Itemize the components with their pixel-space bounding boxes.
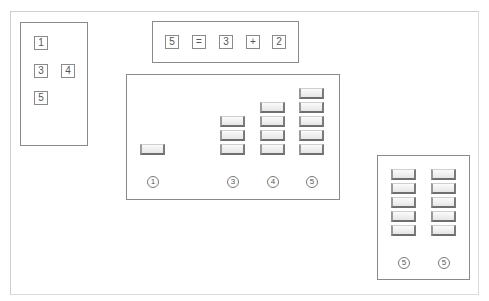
block xyxy=(299,144,324,155)
equation-token-equals: = xyxy=(192,35,206,49)
number-cards-panel: 1 3 4 5 xyxy=(20,22,88,146)
block xyxy=(391,183,416,194)
block xyxy=(220,116,245,127)
block xyxy=(391,211,416,222)
block-towers-panel: 1 3 4 5 xyxy=(126,74,340,200)
count-label-3: 3 xyxy=(227,176,239,188)
two-fives-panel: 5 5 xyxy=(377,155,470,280)
block xyxy=(220,130,245,141)
block xyxy=(391,225,416,236)
number-card-1[interactable]: 1 xyxy=(34,36,48,50)
block xyxy=(260,144,285,155)
equation-token-plus: + xyxy=(246,35,260,49)
number-card-3[interactable]: 3 xyxy=(34,64,48,78)
equation-token-2: 2 xyxy=(272,35,286,49)
block xyxy=(299,116,324,127)
block xyxy=(299,102,324,113)
count-label-1: 1 xyxy=(147,176,159,188)
block xyxy=(260,102,285,113)
equation-token-3: 3 xyxy=(219,35,233,49)
count-label-5b: 5 xyxy=(438,257,450,269)
equation-panel: 5 = 3 + 2 xyxy=(152,21,299,63)
number-card-5[interactable]: 5 xyxy=(34,91,48,105)
block xyxy=(260,130,285,141)
block xyxy=(140,144,165,155)
block xyxy=(391,197,416,208)
count-label-5: 5 xyxy=(306,176,318,188)
block xyxy=(431,169,456,180)
block xyxy=(260,116,285,127)
block xyxy=(431,183,456,194)
count-label-5a: 5 xyxy=(398,257,410,269)
block xyxy=(391,169,416,180)
block xyxy=(299,88,324,99)
block xyxy=(431,225,456,236)
block xyxy=(299,130,324,141)
block xyxy=(220,144,245,155)
count-label-4: 4 xyxy=(267,176,279,188)
equation-token-5: 5 xyxy=(165,35,179,49)
number-card-4[interactable]: 4 xyxy=(61,64,75,78)
block xyxy=(431,197,456,208)
block xyxy=(431,211,456,222)
